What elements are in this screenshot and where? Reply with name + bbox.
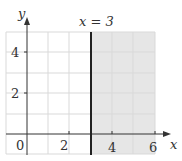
x-tick-label-0: 0	[16, 138, 24, 153]
y-axis-label: y	[17, 6, 26, 21]
y-tick-label-4: 4	[11, 45, 19, 60]
x-tick-label-6: 6	[149, 140, 157, 155]
chart-title: x = 3	[79, 14, 114, 29]
y-tick-label-2: 2	[11, 86, 19, 101]
x-axis-label: x	[170, 137, 178, 152]
graph: y x x = 3 0 2 4 6 2 4	[0, 0, 182, 161]
x-tick-label-4: 4	[108, 140, 116, 155]
x-tick-label-2: 2	[60, 138, 68, 153]
grid	[6, 32, 155, 154]
